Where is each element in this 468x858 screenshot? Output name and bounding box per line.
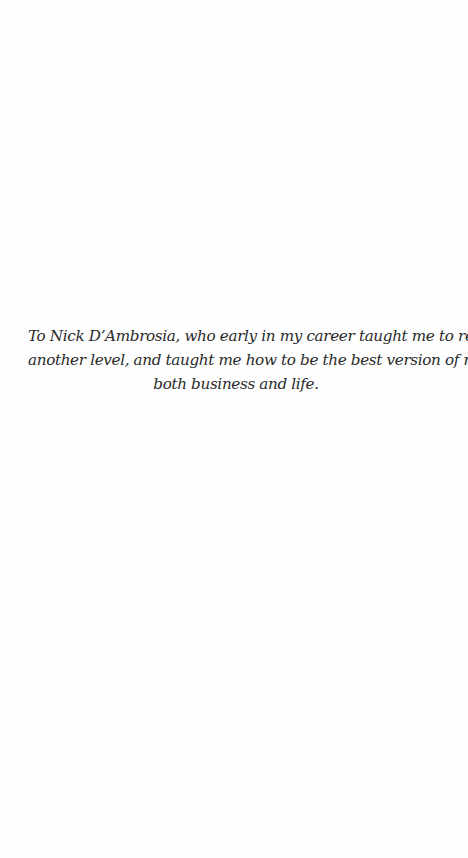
dedication-line-3: both business and life. [28,372,444,396]
dedication-line-2: another level, and taught me how to be t… [28,348,444,372]
dedication-line-1: To Nick D’Ambrosia, who early in my care… [28,324,444,348]
dedication-text: To Nick D’Ambrosia, who early in my care… [28,324,444,396]
book-page: To Nick D’Ambrosia, who early in my care… [0,0,468,858]
